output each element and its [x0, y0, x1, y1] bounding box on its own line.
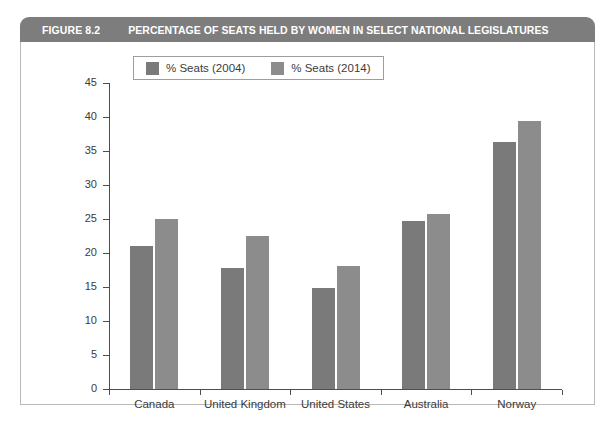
y-tick-label-wrap: 20 — [21, 247, 97, 258]
y-tick-label-wrap: 30 — [21, 179, 97, 190]
bar — [221, 268, 244, 389]
y-tick-label: 45 — [57, 77, 97, 88]
chart-legend: % Seats (2004) % Seats (2014) — [133, 56, 384, 80]
legend-swatch-2014 — [271, 62, 284, 75]
y-tick-mark — [103, 151, 109, 152]
y-tick-label: 20 — [57, 247, 97, 258]
y-tick-mark — [103, 185, 109, 186]
y-tick-label: 10 — [57, 315, 97, 326]
figure-card: FIGURE 8.2 PERCENTAGE OF SEATS HELD BY W… — [20, 17, 595, 405]
category-label: Canada — [109, 398, 200, 411]
category-label: United States — [290, 398, 381, 411]
x-tick-mark — [562, 390, 563, 395]
category-label: Norway — [471, 398, 562, 411]
y-tick-label-wrap: 10 — [21, 315, 97, 326]
y-tick-mark — [103, 287, 109, 288]
bar — [493, 142, 516, 389]
x-tick-mark — [290, 390, 291, 395]
x-tick-mark — [381, 390, 382, 395]
y-tick-label: 40 — [57, 111, 97, 122]
bar — [427, 214, 450, 389]
legend-entry-2004: % Seats (2004) — [146, 62, 245, 75]
y-tick-label-wrap: 5 — [21, 349, 97, 360]
y-axis-line — [109, 83, 110, 390]
legend-label-2014: % Seats (2014) — [291, 62, 370, 74]
y-tick-label-wrap: 15 — [21, 281, 97, 292]
y-tick-label-wrap: 45 — [21, 77, 97, 88]
legend-swatch-2004 — [146, 62, 159, 75]
figure-number: FIGURE 8.2 — [42, 24, 100, 36]
y-tick-label-wrap: 0 — [21, 383, 97, 394]
category-label: Australia — [381, 398, 472, 411]
y-tick-mark — [103, 321, 109, 322]
x-tick-mark — [109, 390, 110, 395]
figure-title: PERCENTAGE OF SEATS HELD BY WOMEN IN SEL… — [128, 24, 548, 36]
y-tick-mark — [103, 219, 109, 220]
legend-label-2004: % Seats (2004) — [166, 62, 245, 74]
bar — [246, 236, 269, 389]
bar — [155, 219, 178, 389]
y-tick-mark — [103, 253, 109, 254]
figure-header-bar: FIGURE 8.2 PERCENTAGE OF SEATS HELD BY W… — [20, 17, 595, 42]
y-tick-label: 0 — [57, 383, 97, 394]
bar — [402, 221, 425, 389]
y-tick-label-wrap: 40 — [21, 111, 97, 122]
legend-entry-2014: % Seats (2014) — [271, 62, 370, 75]
category-label: United Kingdom — [200, 398, 291, 411]
y-tick-label-wrap: 35 — [21, 145, 97, 156]
y-tick-label: 30 — [57, 179, 97, 190]
bar — [130, 246, 153, 389]
bar — [337, 266, 360, 389]
figure-body: 051015202530354045 CanadaUnited KingdomU… — [20, 42, 595, 405]
bar — [518, 121, 541, 389]
x-axis-line — [109, 389, 562, 390]
y-tick-label: 5 — [57, 349, 97, 360]
y-tick-mark — [103, 355, 109, 356]
y-tick-label: 25 — [57, 213, 97, 224]
bar-chart-plot: 051015202530354045 CanadaUnited KingdomU… — [21, 42, 594, 403]
y-tick-label: 35 — [57, 145, 97, 156]
x-tick-mark — [200, 390, 201, 395]
bar — [312, 288, 335, 389]
y-tick-label: 15 — [57, 281, 97, 292]
y-tick-mark — [103, 117, 109, 118]
y-tick-mark — [103, 83, 109, 84]
x-tick-mark — [471, 390, 472, 395]
y-tick-label-wrap: 25 — [21, 213, 97, 224]
